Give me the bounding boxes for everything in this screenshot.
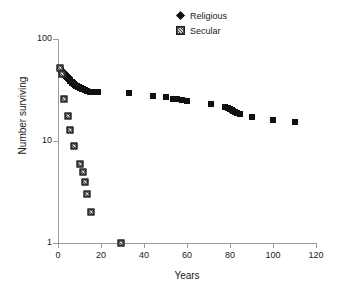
x-tick-label: 0 — [43, 250, 73, 260]
data-point-secular — [88, 209, 95, 216]
data-point-religious — [292, 119, 298, 125]
x-tick-label: 100 — [258, 250, 288, 260]
y-axis-title: Number surviving — [17, 46, 28, 186]
legend-item-religious: Religious — [176, 9, 286, 22]
square-marker-icon — [176, 26, 185, 35]
survivorship-chart: Religious Secular 110100020406080100120 … — [0, 0, 341, 295]
x-tick-label: 60 — [172, 250, 202, 260]
x-tick — [187, 244, 188, 248]
legend-label-religious: Religious — [190, 11, 227, 21]
y-tick-label: 100 — [22, 33, 52, 43]
data-point-secular — [59, 71, 66, 78]
data-point-secular — [66, 127, 73, 134]
data-point-religious — [249, 114, 255, 120]
data-point-religious — [208, 101, 214, 107]
data-point-secular — [61, 95, 68, 102]
x-tick — [273, 244, 274, 248]
plot-area — [58, 39, 316, 243]
data-point-religious — [150, 93, 156, 99]
data-point-secular — [64, 113, 71, 120]
x-axis-title: Years — [58, 270, 316, 281]
data-point-religious — [126, 90, 132, 96]
data-point-secular — [76, 160, 83, 167]
x-tick — [101, 244, 102, 248]
legend-item-secular: Secular — [176, 24, 286, 37]
data-point-secular — [81, 178, 88, 185]
data-point-religious — [270, 117, 276, 123]
data-point-secular — [84, 191, 91, 198]
x-tick-label: 40 — [129, 250, 159, 260]
x-tick-label: 80 — [215, 250, 245, 260]
data-point-secular — [79, 168, 86, 175]
x-tick-label: 20 — [86, 250, 116, 260]
data-point-secular — [71, 142, 78, 149]
data-point-religious — [163, 94, 169, 100]
diamond-marker-icon — [176, 11, 185, 20]
x-tick — [58, 244, 59, 248]
x-tick — [144, 244, 145, 248]
data-point-religious — [184, 98, 190, 104]
chart-legend: Religious Secular — [176, 9, 286, 39]
x-tick-label: 120 — [301, 250, 331, 260]
y-tick-label: 1 — [22, 237, 52, 247]
x-tick — [230, 244, 231, 248]
data-point-religious — [95, 89, 101, 95]
data-point-religious — [237, 111, 243, 117]
data-point-secular — [118, 240, 125, 247]
legend-label-secular: Secular — [190, 26, 221, 36]
x-tick — [316, 244, 317, 248]
